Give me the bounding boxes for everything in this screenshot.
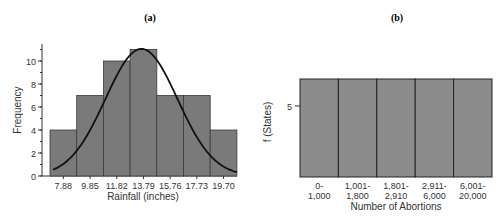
chart-title-b: (b) [391, 12, 403, 24]
x-axis-label: Rainfall (inches) [107, 191, 179, 202]
y-axis-label: Frequency [12, 86, 23, 133]
x-axis-label: Number of Abortions [350, 201, 441, 212]
x-tick-label: 13.79 [132, 181, 155, 191]
histogram-bar [103, 61, 130, 176]
y-tick-label: 2 [31, 149, 36, 159]
histogram-bar [210, 130, 237, 176]
chart-canvas: (a)02468107.889.8511.8213.7915.7617.7319… [0, 0, 504, 219]
x-tick-label: 7.88 [55, 181, 73, 191]
x-tick-label: 6,001- [460, 181, 486, 191]
histogram-rainfall: (a)02468107.889.8511.8213.7915.7617.7319… [12, 12, 237, 202]
x-tick-label: 19.70 [212, 181, 235, 191]
y-tick-label: 10 [26, 57, 36, 67]
x-tick-label: 17.73 [186, 181, 209, 191]
x-tick-label: 1,001- [345, 181, 371, 191]
x-tick-label: 2,911- [422, 181, 447, 191]
chart-title-a: (a) [144, 12, 156, 24]
x-tick-label: 0- [315, 181, 323, 191]
y-tick-label: 0 [31, 172, 36, 182]
histogram-bar [338, 79, 376, 177]
y-tick-label: 5 [287, 102, 292, 112]
histogram-bar [300, 79, 338, 177]
y-tick-label: 4 [31, 126, 36, 136]
y-axis-label: f (States) [262, 102, 273, 143]
x-tick-label: 1,801- [383, 181, 409, 191]
x-tick-label: 1,000 [308, 191, 331, 201]
x-tick-label: 20,000 [459, 191, 487, 201]
histogram-bar [130, 50, 157, 177]
x-tick-label: 15.76 [159, 181, 182, 191]
histogram-bar [377, 79, 415, 177]
x-tick-label: 6,000 [423, 191, 446, 201]
histogram-bar [77, 96, 104, 177]
x-tick-label: 1,800 [346, 191, 369, 201]
histogram-abortions: (b)0-1,0001,001-1,8001,801-2,9102,911-6,… [262, 12, 492, 212]
x-tick-label: 9.85 [81, 181, 99, 191]
histogram-bar [157, 96, 184, 177]
x-tick-label: 11.82 [106, 181, 128, 191]
x-tick-label: 2,910 [385, 191, 408, 201]
histogram-bar [415, 79, 453, 177]
histogram-bar [454, 79, 492, 177]
y-tick-label: 8 [31, 80, 36, 90]
y-tick-label: 6 [31, 103, 36, 113]
